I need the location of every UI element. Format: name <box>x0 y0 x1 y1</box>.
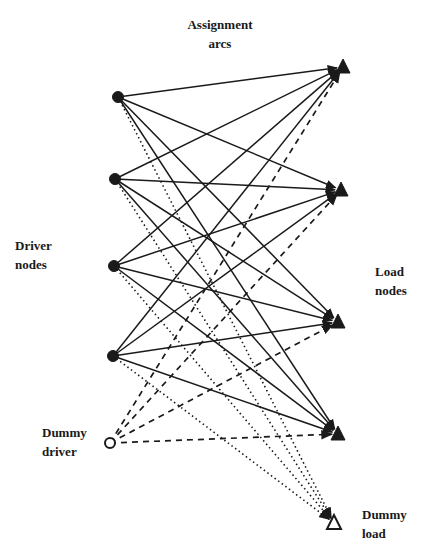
arc-D2-L2 <box>115 179 335 190</box>
label-dummy-driver: Dummy driver <box>42 423 87 461</box>
label-load-nodes: Load nodes <box>375 262 407 300</box>
arcs-from-dummy-driver-dashed <box>110 72 340 443</box>
arc-D2-L3 <box>115 179 333 319</box>
load-node-icon <box>336 59 350 73</box>
label-assignment-arcs: Assignment arcs <box>170 15 270 53</box>
arc-DD-L2 <box>110 194 337 443</box>
arc-DD-L3 <box>110 325 333 443</box>
label-dummy-load: Dummy load <box>362 505 407 543</box>
label-dummy-driver-line2: driver <box>42 442 87 461</box>
driver-node-icon <box>110 174 121 185</box>
label-assignment-arcs-line1: Assignment <box>170 15 270 34</box>
dummy-load-node-icon <box>327 515 341 529</box>
arc-DD-L1 <box>110 72 340 443</box>
arc-D1-L4 <box>118 97 335 429</box>
label-driver-nodes-line1: Driver <box>15 236 52 255</box>
arc-D3-L4 <box>114 266 333 430</box>
label-load-nodes-line1: Load <box>375 262 407 281</box>
label-driver-nodes: Driver nodes <box>15 236 52 274</box>
load-node-icon <box>334 182 348 196</box>
arc-D3-L3 <box>114 266 332 321</box>
arc-D1-L2 <box>118 97 335 188</box>
arc-DD-L4 <box>110 434 332 443</box>
label-load-nodes-line2: nodes <box>375 281 407 300</box>
label-dummy-driver-line1: Dummy <box>42 423 87 442</box>
assignment-network-diagram <box>0 0 434 559</box>
arc-D1-L3 <box>118 97 334 318</box>
arc-D3-L1 <box>114 71 338 266</box>
assignment-arcs-solid <box>113 68 339 432</box>
arc-D1-L1 <box>118 68 337 97</box>
arc-D2-L1 <box>115 70 338 179</box>
driver-node-icon <box>109 261 120 272</box>
driver-node-icon <box>113 92 124 103</box>
dummy-driver-node-icon <box>105 438 115 448</box>
driver-node-icon <box>108 351 119 362</box>
arcs-to-dummy-load-dotted <box>113 97 331 519</box>
label-assignment-arcs-line2: arcs <box>170 34 270 53</box>
arc-D4-L3 <box>113 323 332 356</box>
label-dummy-load-line1: Dummy <box>362 505 407 524</box>
label-dummy-load-line2: load <box>362 524 407 543</box>
label-driver-nodes-line2: nodes <box>15 255 52 274</box>
arc-D4-DL <box>113 356 329 519</box>
arc-D3-DL <box>114 266 330 518</box>
